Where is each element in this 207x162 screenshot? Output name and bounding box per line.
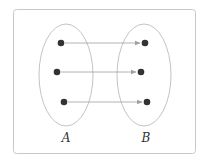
element-a2-dot — [54, 69, 61, 76]
set-mapping-diagram: A B — [0, 0, 207, 162]
element-a3-dot — [61, 99, 68, 106]
set-a-ellipse — [39, 24, 93, 126]
element-a1-dot — [58, 40, 65, 47]
element-b1-dot — [142, 40, 149, 47]
set-a-label: A — [61, 131, 71, 145]
frame — [14, 10, 196, 154]
set-b-ellipse — [117, 24, 171, 126]
set-b-label: B — [141, 131, 151, 145]
element-b3-dot — [144, 99, 151, 106]
element-b2-dot — [138, 69, 145, 76]
